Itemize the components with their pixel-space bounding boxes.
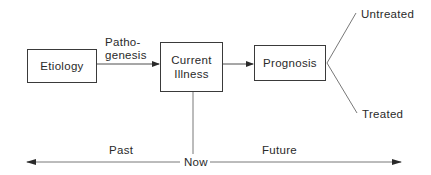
prognosis-box: Prognosis [254, 45, 326, 81]
now-label: Now [182, 156, 210, 169]
pathogenesis-label-line1: Patho- [105, 36, 147, 49]
prognosis-label: Prognosis [263, 56, 317, 70]
current-illness-label-line2: Illness [171, 67, 211, 81]
pathogenesis-label: Patho- genesis [105, 36, 147, 62]
future-label: Future [262, 144, 297, 157]
pathogenesis-label-line2: genesis [105, 49, 147, 62]
untreated-label: Untreated [361, 8, 414, 21]
treated-label: Treated [362, 108, 403, 121]
current-illness-box: Current Illness [160, 42, 223, 92]
treated-branch-line [327, 63, 357, 113]
etiology-label: Etiology [40, 59, 83, 73]
past-label: Past [109, 144, 133, 157]
current-illness-label-line1: Current [171, 53, 211, 67]
etiology-box: Etiology [27, 49, 97, 83]
diagram-canvas: Etiology Current Illness Prognosis Patho… [0, 0, 431, 175]
untreated-branch-line [327, 13, 356, 63]
